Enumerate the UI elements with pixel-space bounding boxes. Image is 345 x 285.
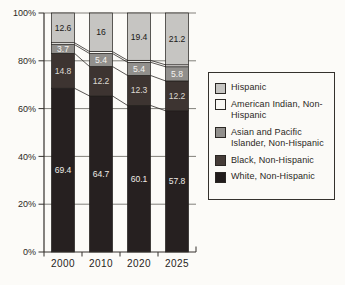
- bar-segment-label: 12.2: [169, 91, 186, 101]
- bar-segment-label: 16: [96, 27, 106, 37]
- legend-swatch-icon: [215, 83, 226, 94]
- legend-item: White, Non-Hispanic: [215, 171, 329, 183]
- bar-segment-label: 3.7: [57, 44, 69, 54]
- legend-swatch-icon: [215, 155, 226, 166]
- bar-segment-label: 5.4: [95, 55, 107, 65]
- legend: HispanicAmerican Indian, Non-HispanicAsi…: [208, 72, 335, 200]
- x-category-label: 2020: [127, 258, 151, 269]
- bar-segment-label: 12.3: [131, 85, 148, 95]
- legend-swatch-icon: [215, 172, 226, 183]
- bar-segment-label: 60.1: [131, 174, 148, 184]
- legend-swatch-icon: [215, 99, 226, 110]
- legend-item: Black, Non-Hispanic: [215, 155, 329, 167]
- series-connector-line: [151, 75, 166, 81]
- bar-segment-label: 21.2: [169, 34, 186, 44]
- bar-segment-label: 5.4: [133, 64, 145, 74]
- legend-item-label: Asian and Pacific Islander, Non-Hispanic: [231, 127, 329, 150]
- bar-segment-label: 19.4: [131, 32, 148, 42]
- y-tick-label: 80%: [18, 56, 36, 66]
- series-connector-line: [113, 52, 128, 61]
- legend-item-label: Black, Non-Hispanic: [231, 155, 314, 167]
- y-tick-label: 60%: [18, 104, 36, 114]
- legend-item-label: American Indian, Non-Hispanic: [231, 99, 329, 122]
- bar-segment-label: 14.8: [55, 66, 72, 76]
- x-category-label: 2025: [165, 258, 189, 269]
- series-connector-line: [75, 53, 90, 66]
- legend-item: American Indian, Non-Hispanic: [215, 99, 329, 122]
- series-connector-line: [75, 45, 90, 54]
- series-connector-line: [113, 67, 128, 76]
- bar-segment-label: 12.6: [55, 23, 72, 33]
- population-projection-figure: 69.414.83.712.664.712.25.41660.112.35.41…: [0, 0, 345, 285]
- y-tick-label: 100%: [13, 8, 36, 18]
- series-connector-line: [75, 88, 90, 96]
- x-category-label: 2010: [89, 258, 113, 269]
- legend-item: Asian and Pacific Islander, Non-Hispanic: [215, 127, 329, 150]
- y-tick-label: 0%: [23, 247, 36, 257]
- x-category-label: 2000: [51, 258, 75, 269]
- legend-item-label: Hispanic: [231, 82, 266, 94]
- bar-segment-label: 64.7: [93, 169, 110, 179]
- legend-item-label: White, Non-Hispanic: [231, 171, 315, 183]
- legend-swatch-icon: [215, 127, 226, 138]
- series-connector-line: [151, 105, 166, 110]
- y-tick-label: 40%: [18, 152, 36, 162]
- bar-segment-label: 12.2: [93, 76, 110, 86]
- y-tick-label: 20%: [18, 199, 36, 209]
- bar-segment-label: 5.8: [171, 69, 183, 79]
- series-connector-line: [75, 43, 90, 52]
- bar-segment-label: 57.8: [169, 176, 186, 186]
- legend-item: Hispanic: [215, 82, 329, 94]
- bar-segment-label: 69.4: [55, 165, 72, 175]
- series-connector-line: [113, 96, 128, 105]
